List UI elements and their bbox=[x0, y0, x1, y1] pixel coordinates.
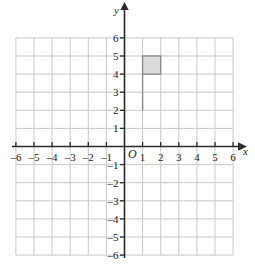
x-tick-label: 6 bbox=[230, 151, 236, 163]
x-tick-label: 5 bbox=[212, 151, 218, 163]
x-tick-label: 4 bbox=[194, 151, 200, 163]
y-tick-label: 2 bbox=[113, 104, 119, 116]
x-tick-label: –4 bbox=[46, 151, 59, 163]
x-tick-label: –3 bbox=[64, 151, 77, 163]
y-tick-label: 4 bbox=[113, 68, 119, 80]
y-tick-label: –1 bbox=[107, 159, 119, 171]
shaded-square bbox=[143, 56, 161, 74]
y-axis-label: y bbox=[113, 4, 119, 16]
y-tick-label: –4 bbox=[107, 213, 120, 225]
x-tick-label: –5 bbox=[28, 151, 41, 163]
coordinate-plane-figure: –6–5–4–3–2–1123456 654321–1–2–3–4–5–6 O … bbox=[0, 0, 255, 266]
y-tick-label: 6 bbox=[113, 32, 119, 44]
coordinate-grid-svg: –6–5–4–3–2–1123456 654321–1–2–3–4–5–6 O … bbox=[0, 0, 255, 266]
x-tick-label: –2 bbox=[82, 151, 94, 163]
x-tick-label: –6 bbox=[9, 151, 22, 163]
y-tick-label: 1 bbox=[113, 122, 119, 134]
y-tick-label: –3 bbox=[107, 195, 120, 207]
x-tick-label: 2 bbox=[158, 151, 164, 163]
y-tick-label: –5 bbox=[107, 231, 120, 243]
y-tick-label: 3 bbox=[113, 86, 119, 98]
x-axis-label: x bbox=[242, 145, 248, 157]
y-tick-label: 5 bbox=[113, 50, 119, 62]
origin-label: O bbox=[128, 147, 137, 161]
x-tick-label: 1 bbox=[140, 151, 146, 163]
y-tick-label: –6 bbox=[107, 249, 120, 261]
x-tick-label: 3 bbox=[176, 151, 182, 163]
figure-background bbox=[0, 0, 255, 266]
y-tick-label: –2 bbox=[107, 177, 119, 189]
